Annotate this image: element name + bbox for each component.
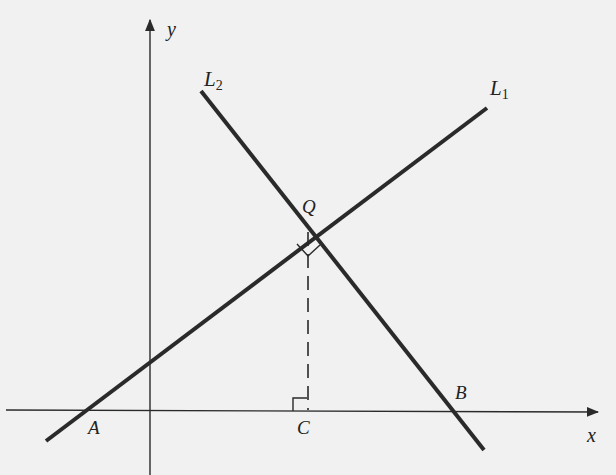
x-axis	[6, 410, 598, 412]
right-angle-mark-c	[293, 398, 307, 411]
point-b-label: B	[455, 382, 467, 403]
diagram-canvas: y x L2 L1 Q A C B	[0, 0, 616, 475]
line-l2	[201, 91, 484, 450]
point-a-label: A	[86, 417, 100, 438]
point-q-label: Q	[302, 196, 316, 217]
line-l1	[46, 108, 487, 441]
line-l2-label: L2	[203, 67, 223, 93]
line-l1-label: L1	[489, 76, 509, 102]
x-axis-label: x	[586, 424, 596, 446]
y-axis-label: y	[165, 18, 176, 41]
point-c-label: C	[297, 417, 310, 438]
